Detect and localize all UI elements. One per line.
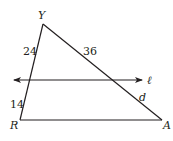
vertex-label-Y: Y [38, 9, 47, 22]
segment-label-36: 36 [83, 45, 97, 58]
segment-label-24: 24 [23, 45, 37, 58]
segment-label-d: d [139, 91, 146, 104]
segment-label-14: 14 [10, 98, 24, 111]
vertex-label-R: R [9, 119, 18, 132]
triangle-diagram: Y R A ℓ 24 36 14 d [0, 0, 173, 141]
line-label-l: ℓ [147, 74, 152, 87]
side-YA [43, 24, 162, 120]
vertex-label-A: A [162, 119, 171, 132]
